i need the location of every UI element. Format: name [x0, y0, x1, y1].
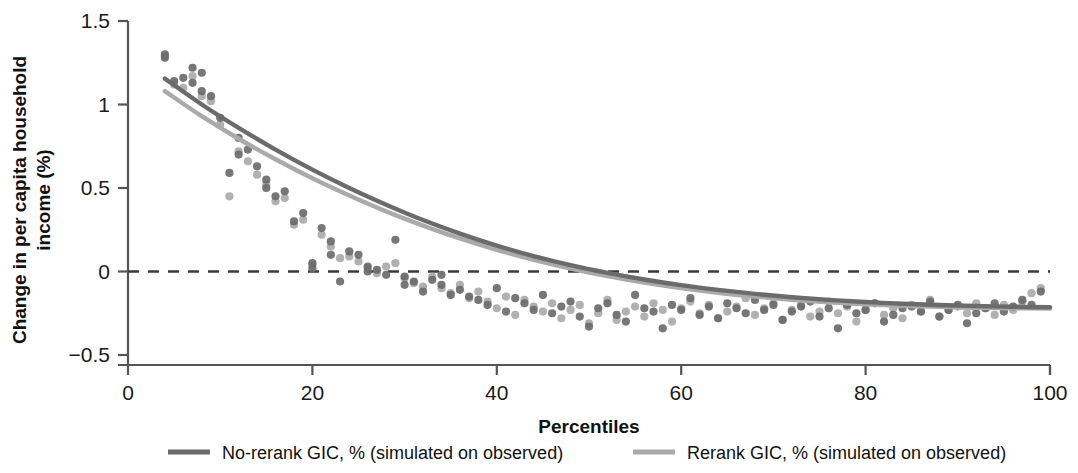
scatter-point	[253, 171, 261, 179]
scatter-point	[539, 291, 547, 299]
scatter-point	[991, 311, 999, 319]
scatter-point	[668, 318, 676, 326]
scatter-point	[677, 306, 685, 314]
scatter-point	[548, 309, 556, 317]
scatter-point	[742, 309, 750, 317]
legend-label: No-rerank GIC, % (simulated on observed)	[222, 443, 563, 463]
scatter-point	[585, 323, 593, 331]
scatter-point	[161, 54, 169, 62]
scatter-point	[732, 304, 740, 312]
scatter-point	[815, 312, 823, 320]
scatter-point	[511, 294, 519, 302]
scatter-point	[696, 311, 704, 319]
scatter-point	[797, 302, 805, 310]
x-tick-label: 40	[485, 381, 508, 404]
scatter-point	[723, 299, 731, 307]
scatter-point	[723, 307, 731, 315]
scatter-point	[447, 291, 455, 299]
scatter-point	[963, 319, 971, 327]
scatter-point	[262, 184, 270, 192]
scatter-point	[668, 301, 676, 309]
chart-figure: −0.500.511.5020406080100PercentilesChang…	[0, 0, 1078, 473]
y-axis-title-line1: Change in per capita household	[9, 56, 30, 344]
scatter-point	[530, 306, 538, 314]
scatter-point	[631, 291, 639, 299]
scatter-point	[225, 169, 233, 177]
y-tick-label: 0.5	[81, 176, 110, 199]
scatter-point	[401, 272, 409, 280]
scatter-point	[456, 286, 464, 294]
fit-curve	[165, 79, 1050, 308]
scatter-point	[1027, 289, 1035, 297]
scatter-point	[373, 266, 381, 274]
scatter-point	[640, 312, 648, 320]
scatter-point	[474, 287, 482, 295]
y-tick-label: −0.5	[69, 343, 110, 366]
y-tick-label: 0	[98, 260, 110, 283]
x-axis-title: Percentiles	[538, 416, 639, 437]
scatter-point	[354, 251, 362, 259]
scatter-point	[207, 92, 215, 100]
scatter-point	[437, 281, 445, 289]
scatter-point	[262, 176, 270, 184]
scatter-point	[382, 271, 390, 279]
scatter-point	[686, 294, 694, 302]
scatter-point	[917, 307, 925, 315]
scatter-point	[502, 292, 510, 300]
scatter-point	[1018, 296, 1026, 304]
scatter-point	[548, 299, 556, 307]
scatter-point	[391, 259, 399, 267]
scatter-point	[659, 306, 667, 314]
scatter-point	[760, 306, 768, 314]
scatter-point	[483, 301, 491, 309]
scatter-point	[834, 309, 842, 317]
scatter-point	[428, 276, 436, 284]
x-tick-label: 100	[1032, 381, 1067, 404]
scatter-point	[751, 311, 759, 319]
x-tick-label: 80	[854, 381, 877, 404]
scatter-point	[345, 247, 353, 255]
scatter-point	[714, 314, 722, 322]
scatter-point	[576, 312, 584, 320]
scatter-point	[465, 292, 473, 300]
scatter-point	[281, 187, 289, 195]
y-axis-title-line2: income (%)	[33, 149, 54, 250]
scatter-point	[253, 162, 261, 170]
scatter-point	[613, 311, 621, 319]
scatter-point	[898, 314, 906, 322]
x-tick-label: 60	[670, 381, 693, 404]
scatter-point	[271, 192, 279, 200]
scatter-point	[769, 301, 777, 309]
scatter-point	[649, 307, 657, 315]
scatter-point	[327, 237, 335, 245]
scatter-point	[410, 277, 418, 285]
scatter-point	[391, 236, 399, 244]
scatter-point	[493, 304, 501, 312]
scatter-point	[640, 304, 648, 312]
scatter-point	[852, 318, 860, 326]
scatter-point	[862, 306, 870, 314]
scatter-point	[225, 192, 233, 200]
scatter-point	[290, 217, 298, 225]
scatter-point	[806, 312, 814, 320]
scatter-point	[705, 302, 713, 310]
scatter-point	[622, 318, 630, 326]
fit-curve	[165, 91, 1050, 308]
scatter-point	[419, 287, 427, 295]
scatter-point	[198, 69, 206, 77]
scatter-point	[336, 254, 344, 262]
scatter-point	[852, 309, 860, 317]
scatter-point	[825, 304, 833, 312]
scatter-point	[834, 324, 842, 332]
scatter-point	[1037, 287, 1045, 295]
scatter-point	[474, 296, 482, 304]
scatter-point	[566, 297, 574, 305]
scatter-point	[631, 302, 639, 310]
scatter-point	[622, 307, 630, 315]
scatter-point	[179, 74, 187, 82]
scatter-point	[318, 224, 326, 232]
scatter-point	[511, 311, 519, 319]
scatter-point	[659, 324, 667, 332]
scatter-point	[401, 281, 409, 289]
scatter-point	[299, 209, 307, 217]
